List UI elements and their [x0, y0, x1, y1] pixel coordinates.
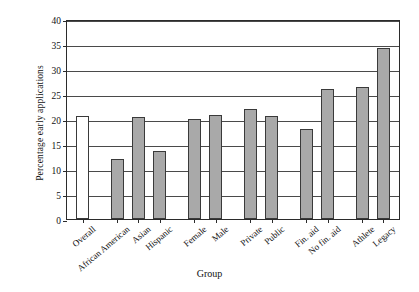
x-axis-tick-3: [160, 219, 161, 223]
plot-area: 0510152025303540: [66, 20, 400, 220]
bar-private: [244, 109, 257, 219]
x-axis-tick-1: [117, 219, 118, 223]
x-axis-tick-4: [194, 219, 195, 223]
y-axis-tick-40: [63, 21, 67, 22]
x-axis-tick-label-female: Female: [182, 224, 209, 249]
bar-public: [265, 116, 278, 219]
y-axis-tick-label-15: 15: [52, 141, 62, 151]
bar-african-american: [111, 159, 124, 219]
x-axis-tick-9: [328, 219, 329, 223]
gridline-35: [67, 46, 399, 47]
x-axis-title: Group: [0, 268, 419, 279]
y-axis-tick-label-35: 35: [52, 41, 62, 51]
bar-no-fin-aid: [321, 89, 334, 220]
bar-hispanic: [153, 151, 166, 219]
x-axis-tick-6: [250, 219, 251, 223]
gridline-40: [67, 21, 399, 22]
bar-fin-aid: [300, 129, 313, 219]
x-axis-tick-label-overall: Overall: [70, 224, 97, 249]
x-axis-tick-label-athlete: Athlete: [350, 224, 377, 249]
bar-asian: [132, 117, 145, 219]
y-axis-tick-35: [63, 46, 67, 47]
x-axis-tick-10: [362, 219, 363, 223]
x-axis-tick-label-public: Public: [262, 224, 286, 246]
y-axis-tick-label-0: 0: [56, 216, 61, 226]
y-axis-tick-label-20: 20: [52, 116, 62, 126]
y-axis-tick-30: [63, 71, 67, 72]
y-axis-tick-label-10: 10: [52, 166, 62, 176]
x-axis-tick-11: [383, 219, 384, 223]
y-axis-tick-0: [63, 221, 67, 222]
x-axis-tick-7: [272, 219, 273, 223]
y-axis-tick-label-30: 30: [52, 66, 62, 76]
bar-athlete: [356, 87, 369, 219]
y-axis-tick-label-5: 5: [56, 191, 61, 201]
bar-female: [188, 119, 201, 219]
bar-legacy: [377, 48, 390, 220]
x-axis-tick-2: [138, 219, 139, 223]
y-axis-tick-10: [63, 171, 67, 172]
bar-male: [209, 115, 222, 219]
y-axis-tick-5: [63, 196, 67, 197]
y-axis-tick-20: [63, 121, 67, 122]
y-axis-title: Percentage early applications: [35, 23, 45, 223]
x-axis-tick-5: [216, 219, 217, 223]
gridline-30: [67, 71, 399, 72]
x-axis-tick-8: [306, 219, 307, 223]
gridline-15: [67, 146, 399, 147]
y-axis-tick-25: [63, 96, 67, 97]
gridline-20: [67, 121, 399, 122]
bar-chart-figure: Percentage early applications 0510152025…: [0, 0, 419, 292]
bar-overall: [76, 116, 89, 220]
y-axis-tick-15: [63, 146, 67, 147]
x-axis-tick-label-male: Male: [210, 224, 231, 244]
gridline-25: [67, 96, 399, 97]
y-axis-tick-label-40: 40: [52, 16, 62, 26]
x-axis-tick-0: [83, 219, 84, 223]
y-axis-tick-label-25: 25: [52, 91, 62, 101]
x-axis-tick-label-private: Private: [239, 224, 265, 248]
x-axis-tick-label-legacy: Legacy: [371, 224, 398, 249]
